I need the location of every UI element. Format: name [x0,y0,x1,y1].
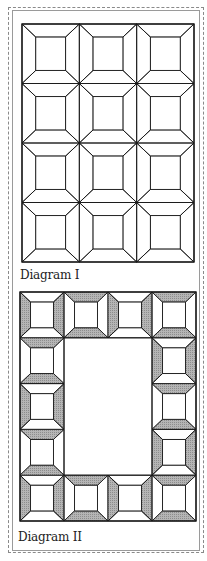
quilt-block [108,475,152,521]
quilt-block [20,292,64,338]
diagram-i-caption: Diagram I [20,268,79,282]
quilt-block [20,384,64,430]
quilt-block [20,475,64,521]
quilt-block [152,338,196,384]
quilt-block [152,429,196,475]
quilt-block [64,475,108,521]
quilt-block [20,429,64,475]
quilt-block [152,475,196,521]
quilt-block [152,292,196,338]
quilt-block [20,338,64,384]
quilt-block [152,384,196,430]
quilt-block [108,292,152,338]
quilt-block [64,292,108,338]
diagram-ii-caption: Diagram II [18,530,82,544]
